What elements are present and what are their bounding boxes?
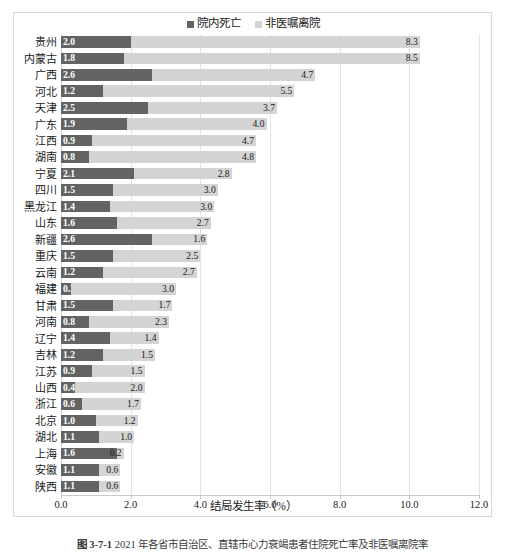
stacked-bar[interactable]: 1.11.0: [61, 431, 134, 443]
bar-row[interactable]: 陕西1.10.6: [61, 479, 479, 495]
bar-row[interactable]: 湖南0.84.8: [61, 149, 479, 165]
bar-segment-discharge-against-advice[interactable]: 2.8: [134, 168, 232, 180]
bar-row[interactable]: 宁夏2.12.8: [61, 166, 479, 182]
bar-segment-discharge-against-advice[interactable]: 4.0: [127, 118, 266, 130]
stacked-bar[interactable]: 0.91.5: [61, 365, 145, 377]
bar-segment-discharge-against-advice[interactable]: 5.5: [103, 85, 295, 97]
stacked-bar[interactable]: 2.12.8: [61, 168, 232, 180]
bar-segment-discharge-against-advice[interactable]: 4.7: [152, 69, 316, 81]
bar-segment-in-hospital-death[interactable]: 1.8: [61, 53, 124, 65]
bar-segment-discharge-against-advice[interactable]: 1.6: [152, 234, 208, 246]
bar-segment-discharge-against-advice[interactable]: 0.6: [99, 481, 120, 493]
bar-row[interactable]: 河北1.25.5: [61, 83, 479, 99]
stacked-bar[interactable]: 0.84.8: [61, 151, 256, 163]
bar-segment-in-hospital-death[interactable]: 1.2: [61, 349, 103, 361]
stacked-bar[interactable]: 1.10.6: [61, 481, 120, 493]
bar-row[interactable]: 江苏0.91.5: [61, 363, 479, 379]
bar-row[interactable]: 山西0.42.0: [61, 380, 479, 396]
bar-row[interactable]: 河南0.82.3: [61, 314, 479, 330]
bar-segment-discharge-against-advice[interactable]: 3.7: [148, 102, 277, 114]
bar-row[interactable]: 上海1.60.2: [61, 446, 479, 462]
bar-segment-discharge-against-advice[interactable]: 4.7: [92, 135, 256, 147]
bar-row[interactable]: 甘肃1.51.7: [61, 297, 479, 313]
bar-segment-discharge-against-advice[interactable]: 2.7: [103, 267, 197, 279]
bar-segment-in-hospital-death[interactable]: 0.9: [61, 135, 92, 147]
bar-segment-in-hospital-death[interactable]: 1.4: [61, 332, 110, 344]
bar-segment-in-hospital-death[interactable]: 1.9: [61, 118, 127, 130]
bar-row[interactable]: 吉林1.21.5: [61, 347, 479, 363]
bar-segment-discharge-against-advice[interactable]: 1.7: [113, 300, 172, 312]
stacked-bar[interactable]: 1.88.5: [61, 53, 420, 65]
bar-segment-discharge-against-advice[interactable]: 2.5: [113, 250, 200, 262]
bar-segment-discharge-against-advice[interactable]: 2.3: [89, 316, 169, 328]
bar-segment-in-hospital-death[interactable]: 0.9: [61, 365, 92, 377]
stacked-bar[interactable]: 1.62.7: [61, 217, 211, 229]
bar-row[interactable]: 辽宁1.41.4: [61, 330, 479, 346]
bar-segment-in-hospital-death[interactable]: 1.2: [61, 267, 103, 279]
bar-row[interactable]: 山东1.62.7: [61, 215, 479, 231]
bar-segment-in-hospital-death[interactable]: 1.5: [61, 300, 113, 312]
bar-segment-in-hospital-death[interactable]: 1.5: [61, 250, 113, 262]
bar-segment-in-hospital-death[interactable]: 1.5: [61, 184, 113, 196]
bar-segment-in-hospital-death[interactable]: 1.1: [61, 464, 99, 476]
bar-segment-in-hospital-death[interactable]: 0.8: [61, 316, 89, 328]
bar-segment-in-hospital-death[interactable]: 1.2: [61, 85, 103, 97]
stacked-bar[interactable]: 1.25.5: [61, 85, 294, 97]
bar-segment-discharge-against-advice[interactable]: 8.3: [131, 36, 420, 48]
bar-segment-discharge-against-advice[interactable]: 3.0: [71, 283, 176, 295]
bar-row[interactable]: 广东1.94.0: [61, 116, 479, 132]
bar-segment-in-hospital-death[interactable]: 2.5: [61, 102, 148, 114]
bar-row[interactable]: 安徽1.10.6: [61, 462, 479, 478]
bar-row[interactable]: 四川1.53.0: [61, 182, 479, 198]
stacked-bar[interactable]: 2.53.7: [61, 102, 277, 114]
stacked-bar[interactable]: 1.51.7: [61, 300, 172, 312]
bar-segment-discharge-against-advice[interactable]: 0.2: [117, 448, 124, 460]
bar-row[interactable]: 贵州2.08.3: [61, 34, 479, 50]
bar-segment-in-hospital-death[interactable]: 1.0: [61, 415, 96, 427]
bar-row[interactable]: 湖北1.11.0: [61, 429, 479, 445]
bar-row[interactable]: 内蒙古1.88.5: [61, 50, 479, 66]
stacked-bar[interactable]: 1.10.6: [61, 464, 120, 476]
stacked-bar[interactable]: 1.43.0: [61, 201, 214, 213]
stacked-bar[interactable]: 1.21.5: [61, 349, 155, 361]
bar-segment-in-hospital-death[interactable]: 0.8: [61, 151, 89, 163]
bar-segment-discharge-against-advice[interactable]: 2.0: [75, 382, 145, 394]
bar-segment-discharge-against-advice[interactable]: 4.8: [89, 151, 256, 163]
stacked-bar[interactable]: 0.33.0: [61, 283, 176, 295]
bar-segment-in-hospital-death[interactable]: 2.1: [61, 168, 134, 180]
bar-segment-discharge-against-advice[interactable]: 1.2: [96, 415, 138, 427]
bar-row[interactable]: 天津2.53.7: [61, 100, 479, 116]
bar-segment-in-hospital-death[interactable]: 1.6: [61, 217, 117, 229]
stacked-bar[interactable]: 0.94.7: [61, 135, 256, 147]
stacked-bar[interactable]: 1.60.2: [61, 448, 124, 460]
stacked-bar[interactable]: 1.52.5: [61, 250, 200, 262]
bar-segment-in-hospital-death[interactable]: 1.1: [61, 481, 99, 493]
stacked-bar[interactable]: 2.08.3: [61, 36, 420, 48]
stacked-bar[interactable]: 2.61.6: [61, 234, 207, 246]
bar-segment-discharge-against-advice[interactable]: 8.5: [124, 53, 420, 65]
bar-row[interactable]: 云南1.22.7: [61, 265, 479, 281]
bar-segment-discharge-against-advice[interactable]: 3.0: [113, 184, 218, 196]
bar-segment-in-hospital-death[interactable]: 2.0: [61, 36, 131, 48]
bar-segment-in-hospital-death[interactable]: 0.4: [61, 382, 75, 394]
bar-row[interactable]: 浙江0.61.7: [61, 396, 479, 412]
stacked-bar[interactable]: 1.94.0: [61, 118, 267, 130]
bar-segment-in-hospital-death[interactable]: 2.6: [61, 69, 152, 81]
bar-segment-in-hospital-death[interactable]: 2.6: [61, 234, 152, 246]
stacked-bar[interactable]: 0.61.7: [61, 398, 141, 410]
bar-segment-discharge-against-advice[interactable]: 3.0: [110, 201, 215, 213]
bar-row[interactable]: 重庆1.52.5: [61, 248, 479, 264]
stacked-bar[interactable]: 0.82.3: [61, 316, 169, 328]
bar-row[interactable]: 新疆2.61.6: [61, 232, 479, 248]
bar-row[interactable]: 江西0.94.7: [61, 133, 479, 149]
bar-row[interactable]: 福建0.33.0: [61, 281, 479, 297]
stacked-bar[interactable]: 2.64.7: [61, 69, 315, 81]
stacked-bar[interactable]: 1.53.0: [61, 184, 218, 196]
stacked-bar[interactable]: 0.42.0: [61, 382, 145, 394]
bar-segment-in-hospital-death[interactable]: 1.6: [61, 448, 117, 460]
bar-segment-discharge-against-advice[interactable]: 0.6: [99, 464, 120, 476]
bar-segment-discharge-against-advice[interactable]: 1.5: [103, 349, 155, 361]
stacked-bar[interactable]: 1.01.2: [61, 415, 138, 427]
bar-segment-in-hospital-death[interactable]: 1.1: [61, 431, 99, 443]
bar-segment-in-hospital-death[interactable]: 1.4: [61, 201, 110, 213]
